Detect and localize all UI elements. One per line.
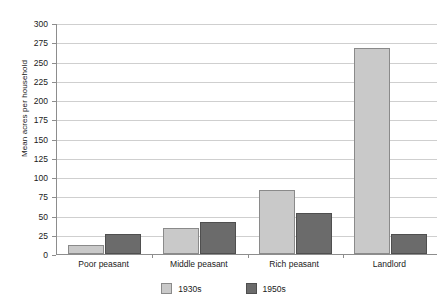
bar-1930s-rich-peasant	[259, 190, 295, 254]
bar-1950s-landlord	[391, 234, 427, 254]
y-axis-tick-label: 50	[8, 213, 48, 221]
bar-1930s-poor-peasant	[68, 245, 104, 254]
legend-swatch-1930s	[161, 283, 172, 294]
legend-item-1950s: 1950s	[246, 283, 286, 294]
legend-label: 1930s	[178, 284, 201, 294]
legend-label: 1950s	[263, 284, 286, 294]
bar-1950s-rich-peasant	[296, 213, 332, 254]
y-axis-tick-label: 200	[8, 97, 48, 105]
y-axis-tick-label: 0	[8, 251, 48, 259]
bar-1930s-landlord	[354, 48, 390, 254]
y-axis-tick-label: 25	[8, 232, 48, 240]
bar-chart: Mean acres per household 025507510012515…	[0, 0, 447, 306]
bar-1930s-middle-peasant	[163, 228, 199, 254]
bar-container	[57, 24, 437, 254]
x-axis-tick-mark	[343, 254, 344, 258]
y-axis-tick-label: 250	[8, 59, 48, 67]
y-axis-tick-label: 100	[8, 174, 48, 182]
bar-1950s-poor-peasant	[105, 234, 141, 254]
y-axis-tick-label: 125	[8, 155, 48, 163]
y-axis-tick-label: 150	[8, 136, 48, 144]
chart-legend: 1930s1950s	[0, 283, 447, 294]
y-axis-tick-label: 300	[8, 20, 48, 28]
y-axis-tick-label: 275	[8, 39, 48, 47]
legend-item-1930s: 1930s	[161, 283, 201, 294]
x-axis-label: Landlord	[329, 259, 447, 269]
y-axis-tick-label: 175	[8, 116, 48, 124]
y-axis-tick-label: 225	[8, 78, 48, 86]
y-axis-tick-label: 75	[8, 193, 48, 201]
x-axis-tick-mark	[248, 254, 249, 258]
x-axis-tick-mark	[152, 254, 153, 258]
plot-area	[56, 24, 437, 255]
legend-swatch-1950s	[246, 283, 257, 294]
bar-1950s-middle-peasant	[200, 222, 236, 254]
y-axis-tick-mark	[52, 255, 56, 256]
